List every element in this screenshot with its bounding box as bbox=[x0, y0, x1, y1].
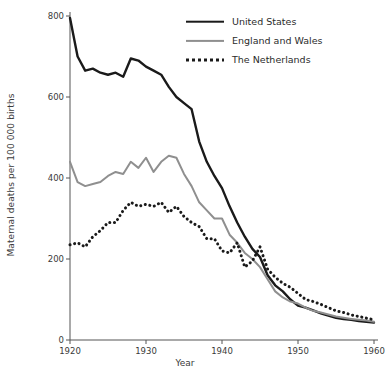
legend-swatch-united-states bbox=[186, 16, 224, 28]
x-tick-1930: 1930 bbox=[131, 346, 161, 356]
maternal-mortality-chart: United States England and Wales The Neth… bbox=[0, 0, 388, 382]
legend-swatch-england-and-wales bbox=[186, 35, 224, 47]
legend-label-the-netherlands: The Netherlands bbox=[232, 54, 311, 65]
x-tick-1940: 1940 bbox=[207, 346, 237, 356]
y-tick-400: 400 bbox=[36, 173, 64, 183]
legend-label-united-states: United States bbox=[232, 16, 296, 27]
x-tick-1920: 1920 bbox=[55, 346, 85, 356]
y-tick-0: 0 bbox=[36, 335, 64, 345]
legend-item-england-and-wales: England and Wales bbox=[186, 31, 382, 50]
chart-legend: United States England and Wales The Neth… bbox=[186, 12, 382, 69]
series-line-england-and-wales bbox=[70, 156, 374, 322]
x-axis-title: Year bbox=[55, 358, 315, 368]
legend-item-the-netherlands: The Netherlands bbox=[186, 50, 382, 69]
y-tick-200: 200 bbox=[36, 254, 64, 264]
y-tick-800: 800 bbox=[36, 11, 64, 21]
x-tick-1960: 1960 bbox=[359, 346, 388, 356]
x-tick-1950: 1950 bbox=[283, 346, 313, 356]
legend-swatch-the-netherlands bbox=[186, 54, 224, 66]
y-tick-600: 600 bbox=[36, 92, 64, 102]
legend-label-england-and-wales: England and Wales bbox=[232, 35, 323, 46]
legend-item-united-states: United States bbox=[186, 12, 382, 31]
y-axis-title: Maternal deaths per 100 000 births bbox=[6, 10, 22, 340]
